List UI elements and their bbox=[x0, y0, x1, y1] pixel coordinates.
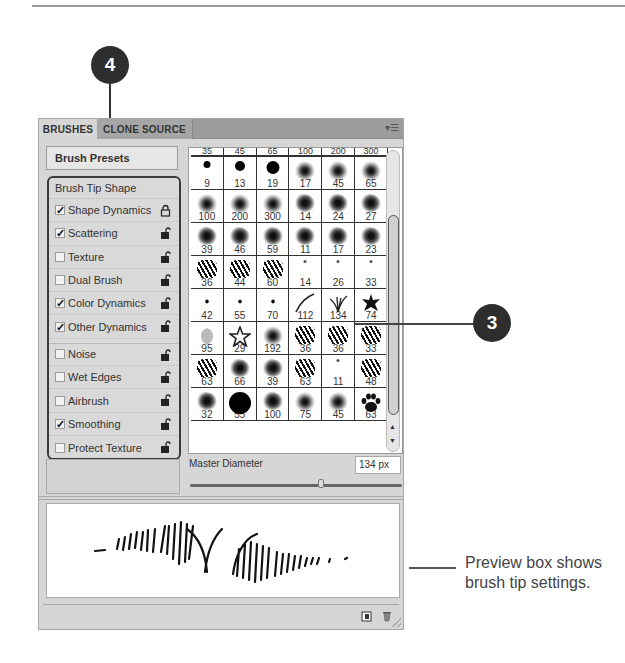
option-color-dynamics[interactable]: ✓Color Dynamics bbox=[49, 292, 179, 315]
checkbox[interactable]: ✓ bbox=[55, 322, 65, 332]
checkbox[interactable]: ✓ bbox=[55, 205, 65, 215]
brush-preset-cell[interactable]: 59 bbox=[257, 223, 290, 256]
brush-preset-cell[interactable]: 23 bbox=[355, 223, 388, 256]
brush-preset-cell[interactable]: 95 bbox=[191, 322, 224, 355]
brush-preset-cell[interactable]: 100 bbox=[191, 190, 224, 223]
brush-preset-cell[interactable]: 63 bbox=[355, 388, 388, 421]
brush-preset-cell[interactable]: 36 bbox=[322, 322, 355, 355]
brush-preset-cell[interactable]: 14 bbox=[289, 190, 322, 223]
checkbox[interactable]: ✓ bbox=[55, 419, 65, 429]
checkbox[interactable]: ✓ bbox=[55, 298, 65, 308]
option-shape-dynamics[interactable]: ✓Shape Dynamics bbox=[49, 199, 179, 222]
new-preset-icon[interactable] bbox=[361, 610, 373, 622]
lock-open-icon[interactable] bbox=[160, 297, 171, 310]
checkbox[interactable] bbox=[55, 443, 65, 453]
brush-preset-cell[interactable]: 63 bbox=[191, 355, 224, 388]
checkbox[interactable] bbox=[55, 372, 65, 382]
brush-preset-cell[interactable]: 32 bbox=[191, 388, 224, 421]
brush-preset-cell[interactable]: 11 bbox=[322, 355, 355, 388]
brush-preset-cell[interactable]: 45 bbox=[322, 157, 355, 190]
checkbox[interactable]: ✓ bbox=[55, 228, 65, 238]
tab-brushes[interactable]: BRUSHES bbox=[39, 119, 97, 139]
brush-preset-cell[interactable]: 48 bbox=[355, 355, 388, 388]
brush-tip-icon bbox=[230, 260, 250, 278]
brush-preset-cell[interactable]: 134 bbox=[322, 289, 355, 322]
lock-open-icon[interactable] bbox=[160, 394, 171, 407]
brush-preset-cell[interactable]: 100 bbox=[257, 388, 290, 421]
lock-open-icon[interactable] bbox=[160, 320, 171, 333]
scrollbar-thumb[interactable] bbox=[388, 215, 399, 415]
brush-preset-cell[interactable]: 39 bbox=[257, 355, 290, 388]
lock-open-icon[interactable] bbox=[160, 349, 171, 362]
tab-clone-source[interactable]: CLONE SOURCE bbox=[97, 119, 193, 139]
option-wet-edges[interactable]: Wet Edges bbox=[49, 366, 179, 389]
brush-preset-cell[interactable]: 14 bbox=[289, 256, 322, 289]
brush-preset-cell[interactable]: 36 bbox=[289, 322, 322, 355]
brush-size: 46 bbox=[234, 244, 245, 255]
option-smoothing[interactable]: ✓Smoothing bbox=[49, 413, 179, 436]
checkbox[interactable] bbox=[55, 396, 65, 406]
scroll-down-arrow-icon[interactable]: ▼ bbox=[389, 437, 396, 444]
brush-preset-cell[interactable]: 36 bbox=[191, 256, 224, 289]
brush-preset-cell[interactable]: 33 bbox=[355, 256, 388, 289]
resize-grip-icon[interactable] bbox=[392, 618, 401, 627]
lock-closed-icon[interactable] bbox=[160, 204, 171, 217]
brush-preset-cell[interactable]: 39 bbox=[191, 223, 224, 256]
brush-preset-cell[interactable]: 112 bbox=[289, 289, 322, 322]
lock-open-icon[interactable] bbox=[160, 274, 171, 287]
brush-preset-cell[interactable]: 55 bbox=[224, 289, 257, 322]
master-diameter-input[interactable]: 134 px bbox=[355, 456, 401, 474]
option-protect-texture[interactable]: Protect Texture bbox=[49, 436, 179, 459]
brush-preset-cell[interactable]: 75 bbox=[289, 388, 322, 421]
brush-options-list: Brush Tip Shape ✓Shape Dynamics ✓Scatter… bbox=[47, 176, 181, 460]
brush-preset-cell[interactable]: 42 bbox=[191, 289, 224, 322]
brush-presets-button[interactable]: Brush Presets bbox=[46, 146, 178, 170]
brush-preset-cell[interactable]: 66 bbox=[224, 355, 257, 388]
brush-preset-cell[interactable]: 26 bbox=[322, 256, 355, 289]
brush-grid: 35 45 65 100 200 300 9131917456510020030… bbox=[188, 147, 403, 454]
brush-preset-cell[interactable]: 44 bbox=[224, 256, 257, 289]
brush-preset-cell[interactable]: 17 bbox=[289, 157, 322, 190]
brush-preset-cell[interactable]: 63 bbox=[289, 355, 322, 388]
lock-open-icon[interactable] bbox=[160, 441, 171, 454]
master-diameter-slider[interactable] bbox=[190, 484, 402, 487]
option-noise[interactable]: Noise bbox=[49, 343, 179, 366]
option-scattering[interactable]: ✓Scattering bbox=[49, 222, 179, 245]
brush-preset-cell[interactable]: 45 bbox=[322, 388, 355, 421]
brush-preset-cell[interactable]: 19 bbox=[257, 157, 290, 190]
brush-preset-cell[interactable]: 55 bbox=[224, 388, 257, 421]
checkbox[interactable] bbox=[55, 349, 65, 359]
option-airbrush[interactable]: Airbrush bbox=[49, 389, 179, 412]
brush-preset-cell[interactable]: 29 bbox=[224, 322, 257, 355]
option-texture[interactable]: Texture bbox=[49, 246, 179, 269]
brush-preset-cell[interactable]: 13 bbox=[224, 157, 257, 190]
brush-tip-shape-item[interactable]: Brush Tip Shape bbox=[49, 178, 179, 199]
vertical-scrollbar[interactable]: ▲ ▼ bbox=[386, 150, 400, 452]
brush-preset-cell[interactable]: 65 bbox=[355, 157, 388, 190]
brush-preset-cell[interactable]: 200 bbox=[224, 190, 257, 223]
lock-open-icon[interactable] bbox=[160, 251, 171, 264]
brush-preset-cell[interactable]: 27 bbox=[355, 190, 388, 223]
lock-open-icon[interactable] bbox=[160, 418, 171, 431]
brush-preset-cell[interactable]: 74 bbox=[355, 289, 388, 322]
checkbox[interactable] bbox=[55, 275, 65, 285]
brush-preset-cell[interactable]: 60 bbox=[257, 256, 290, 289]
checkbox[interactable] bbox=[55, 252, 65, 262]
option-dual-brush[interactable]: Dual Brush bbox=[49, 269, 179, 292]
option-other-dynamics[interactable]: ✓Other Dynamics bbox=[49, 315, 179, 338]
brush-preset-cell[interactable]: 17 bbox=[322, 223, 355, 256]
lock-open-icon[interactable] bbox=[160, 371, 171, 384]
slider-thumb[interactable] bbox=[318, 479, 324, 488]
brush-preset-cell[interactable]: 11 bbox=[289, 223, 322, 256]
brush-preset-cell[interactable]: 24 bbox=[322, 190, 355, 223]
brush-preset-cell[interactable]: 46 bbox=[224, 223, 257, 256]
brush-preset-cell[interactable]: 192 bbox=[257, 322, 290, 355]
brush-preset-cell[interactable]: 70 bbox=[257, 289, 290, 322]
brush-preset-cell[interactable]: 300 bbox=[257, 190, 290, 223]
scroll-up-arrow-icon[interactable]: ▲ bbox=[389, 423, 396, 430]
option-label: Noise bbox=[68, 348, 96, 360]
brush-preset-cell[interactable]: 33 bbox=[355, 322, 388, 355]
panel-menu-icon[interactable]: ▾☰ bbox=[385, 122, 399, 133]
lock-open-icon[interactable] bbox=[160, 227, 171, 240]
brush-preset-cell[interactable]: 9 bbox=[191, 157, 224, 190]
